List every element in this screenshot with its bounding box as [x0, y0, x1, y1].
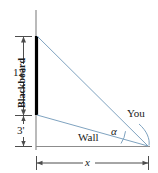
dim-arrow-x-right — [143, 161, 149, 166]
label-you: You — [127, 108, 145, 119]
dim-arrow-3-down — [21, 141, 25, 146]
label-distance-x: x — [85, 157, 90, 168]
label-wall: Wall — [78, 132, 99, 143]
dim-arrow-x-left — [37, 161, 43, 166]
label-angle-alpha: α — [111, 126, 117, 137]
label-height-3: 3' — [17, 125, 24, 136]
angle-arc — [121, 131, 126, 143]
dim-arrow-12-up — [21, 37, 26, 43]
label-blackboard: Blackboard — [17, 46, 27, 120]
sight-line-top — [37, 36, 148, 146]
blackboard-angle-figure: 12' 3' Blackboard Wall You α x — [0, 0, 158, 173]
